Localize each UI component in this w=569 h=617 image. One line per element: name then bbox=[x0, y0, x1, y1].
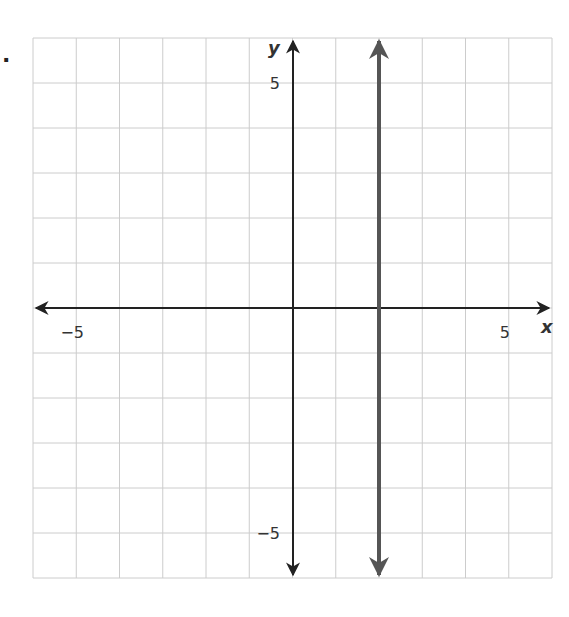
x-tick-label: −5 bbox=[60, 323, 84, 342]
x-tick-label: 5 bbox=[500, 323, 510, 342]
coordinate-graph: −555−5xy bbox=[0, 0, 569, 617]
x-axis-label: x bbox=[540, 316, 554, 337]
y-axis-label: y bbox=[268, 37, 281, 58]
axes bbox=[36, 41, 549, 575]
y-tick-label: 5 bbox=[270, 74, 280, 93]
axis-labels: −555−5xy bbox=[60, 37, 554, 543]
y-tick-label: −5 bbox=[256, 524, 280, 543]
